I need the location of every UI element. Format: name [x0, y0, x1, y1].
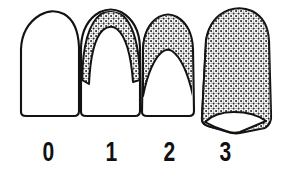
dental-grading-figure: 0 1 2 3 [0, 0, 288, 172]
grade-label-1: 1 [99, 137, 122, 167]
tooth-0-outline [21, 11, 79, 116]
tooth-grade-3 [202, 8, 271, 133]
grade-label-3: 3 [213, 137, 236, 167]
grade-label-row: 0 1 2 3 [0, 137, 288, 172]
tooth-grade-1 [81, 10, 140, 117]
grade-label-2: 2 [157, 137, 180, 167]
grade-label-0: 0 [36, 137, 59, 167]
tooth-grade-2 [142, 15, 194, 117]
tooth-grade-0 [21, 11, 79, 116]
